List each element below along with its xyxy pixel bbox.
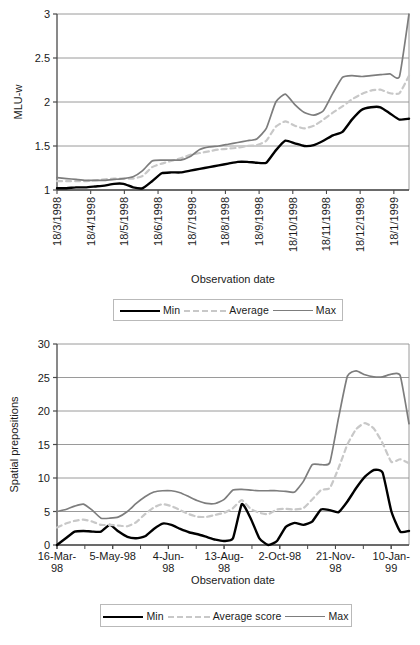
x-tick-label: 13-Aug- xyxy=(205,550,244,562)
y-tick-label: 10 xyxy=(38,472,50,484)
legend-swatch-avg-icon xyxy=(184,305,226,315)
y-tick-label: 5 xyxy=(44,506,50,518)
spatial-prepositions-chart-plot: 05101520253016-Mar-985-May-984-Jun-9813-… xyxy=(0,330,420,598)
x-tick-label: 5-May-98 xyxy=(89,550,135,562)
x-tick-label: 18/10/1998 xyxy=(287,197,299,252)
legend-swatch-min-icon xyxy=(120,305,160,315)
legend-label: Min xyxy=(163,304,180,316)
x-tick-label: 18/1/1999 xyxy=(388,197,400,246)
legend-label: Max xyxy=(316,304,336,316)
y-tick-label: 30 xyxy=(38,338,50,350)
y-tick-label: 2.5 xyxy=(35,52,50,64)
legend-entry-average: Average xyxy=(184,304,269,316)
x-tick-label: 98 xyxy=(329,562,341,574)
legend-swatch-avg-icon xyxy=(168,611,210,621)
legend-label: Min xyxy=(146,610,163,622)
legend-spatial-prepositions: MinAverage scoreMax xyxy=(100,604,352,627)
legend-swatch-max-icon xyxy=(273,305,313,315)
mlu-w-chart-figure: 11.522.5318/3/199818/4/199818/5/199818/6… xyxy=(0,0,420,330)
x-axis-title: Observation date xyxy=(191,273,275,285)
x-tick-label: 18/6/1998 xyxy=(152,197,164,246)
x-tick-label: 18/3/1998 xyxy=(51,197,63,246)
y-tick-label: 25 xyxy=(38,372,50,384)
legend-swatch-max-icon xyxy=(285,611,325,621)
x-tick-label: 4-Jun- xyxy=(153,550,185,562)
x-tick-label: 10-Jan- xyxy=(373,550,411,562)
x-tick-label: 18/8/1998 xyxy=(219,197,231,246)
legend-entry-min: Min xyxy=(120,304,180,316)
legend-entry-min: Min xyxy=(103,610,163,622)
y-tick-label: 3 xyxy=(44,8,50,20)
y-axis-title: MLU-w xyxy=(12,85,24,120)
legend-swatch-min-icon xyxy=(103,611,143,621)
x-tick-label: 18/11/1998 xyxy=(320,197,332,251)
mlu-w-chart-plot: 11.522.5318/3/199818/4/199818/5/199818/6… xyxy=(0,0,420,292)
x-tick-label: 18/12/1998 xyxy=(354,197,366,252)
legend-label: Average xyxy=(229,304,269,316)
x-tick-label: 18/4/1998 xyxy=(85,197,97,246)
y-tick-label: 20 xyxy=(38,405,50,417)
x-tick-label: 98 xyxy=(162,562,174,574)
x-tick-label: 18/7/1998 xyxy=(186,197,198,246)
legend-mlu-w: MinAverageMax xyxy=(113,299,343,321)
legend-label: Average score xyxy=(213,610,282,622)
x-tick-label: 98 xyxy=(51,562,63,574)
x-tick-label: 21-Nov- xyxy=(316,550,355,562)
legend-entry-max: Max xyxy=(273,304,336,316)
legend-entry-average-score: Average score xyxy=(168,610,282,622)
x-tick-label: 98 xyxy=(218,562,230,574)
x-tick-label: 18/9/1998 xyxy=(253,197,265,246)
y-axis-title: Spatial prepositions xyxy=(8,396,20,493)
x-tick-label: 99 xyxy=(385,562,397,574)
x-axis-title: Observation date xyxy=(191,574,275,586)
y-tick-label: 15 xyxy=(38,439,50,451)
y-tick-label: 2 xyxy=(44,96,50,108)
x-tick-label: 18/5/1998 xyxy=(118,197,130,246)
x-tick-label: 16-Mar- xyxy=(38,550,77,562)
legend-label: Max xyxy=(328,610,348,622)
spatial-prepositions-chart-figure: 05101520253016-Mar-985-May-984-Jun-9813-… xyxy=(0,330,420,645)
legend-entry-max: Max xyxy=(285,610,348,622)
y-tick-label: 1 xyxy=(44,184,50,196)
x-tick-label: 2-Oct-98 xyxy=(258,550,301,562)
y-tick-label: 1.5 xyxy=(35,140,50,152)
